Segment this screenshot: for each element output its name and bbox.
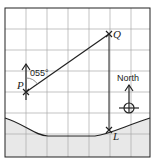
line-PQ bbox=[26, 34, 109, 92]
label-L: L bbox=[112, 130, 119, 142]
angle-arc bbox=[26, 78, 38, 84]
label-P: P bbox=[16, 79, 24, 91]
north-label: North bbox=[117, 73, 139, 83]
label-Q: Q bbox=[113, 28, 121, 40]
bearing-label: 055° bbox=[30, 68, 49, 78]
bearing-diagram: P Q L 055° North bbox=[0, 0, 158, 168]
sea-region bbox=[5, 118, 150, 157]
